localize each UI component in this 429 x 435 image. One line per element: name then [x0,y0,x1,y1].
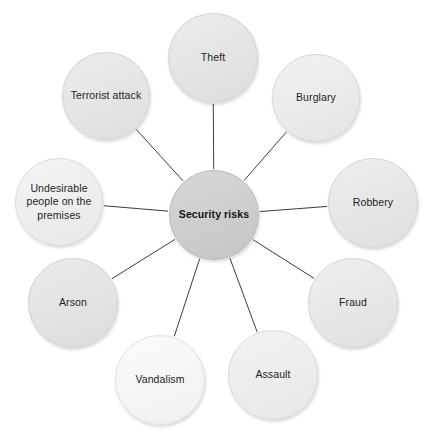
node-theft[interactable]: Theft [168,13,258,103]
connector-line-robbery [260,206,327,211]
node-undesirable-people[interactable]: Undesirable people on the premises [15,158,103,246]
node-label: Robbery [347,196,399,209]
node-label: Fraud [333,296,373,309]
node-label: Undesirable people on the premises [16,182,102,222]
node-terrorist-attack[interactable]: Terrorist attack [62,52,150,140]
node-burglary[interactable]: Burglary [272,54,360,142]
node-label: Theft [195,51,231,64]
connector-line-arson [112,239,175,278]
node-robbery[interactable]: Robbery [328,158,418,248]
diagram-canvas: TheftBurglaryRobberyFraudAssaultVandalis… [0,0,429,435]
connector-line-assault [230,258,257,332]
node-label: Terrorist attack [65,89,148,102]
node-arson[interactable]: Arson [28,258,118,348]
node-label: Vandalism [129,373,190,386]
node-label: Burglary [290,91,342,104]
connector-line-vandalism [174,259,199,337]
node-label: Arson [53,296,93,309]
connector-line-undesirable-people [104,206,168,211]
connector-line-fraud [253,240,314,279]
connector-line-terrorist-attack [136,129,183,181]
center-node-label: Security risks [173,208,255,221]
center-node-security-risks[interactable]: Security risks [169,170,259,260]
connector-line-burglary [244,132,286,180]
node-vandalism[interactable]: Vandalism [115,335,205,425]
node-assault[interactable]: Assault [228,330,318,420]
node-label: Assault [249,368,296,381]
node-fraud[interactable]: Fraud [308,258,398,348]
